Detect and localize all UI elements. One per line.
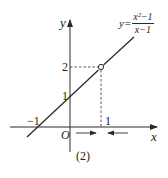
hole-point-icon	[98, 64, 103, 69]
tick-label-y-2: 2	[62, 61, 68, 73]
origin-label: O	[61, 129, 70, 141]
function-label: y= x²−1 x−1	[119, 12, 154, 35]
tick-label-x-1: 1	[105, 115, 111, 127]
y-axis-label: y	[60, 16, 66, 29]
function-numerator: x²−1	[132, 12, 153, 22]
tick-label-y-1: 1	[62, 90, 68, 102]
function-lhs: y=	[119, 18, 131, 29]
x-axis-label: x	[151, 130, 157, 143]
figure-caption: (2)	[76, 150, 90, 162]
function-denominator: x−1	[135, 25, 151, 35]
tick-label-x-neg1: −1	[27, 115, 40, 127]
function-line-upper	[104, 37, 135, 65]
